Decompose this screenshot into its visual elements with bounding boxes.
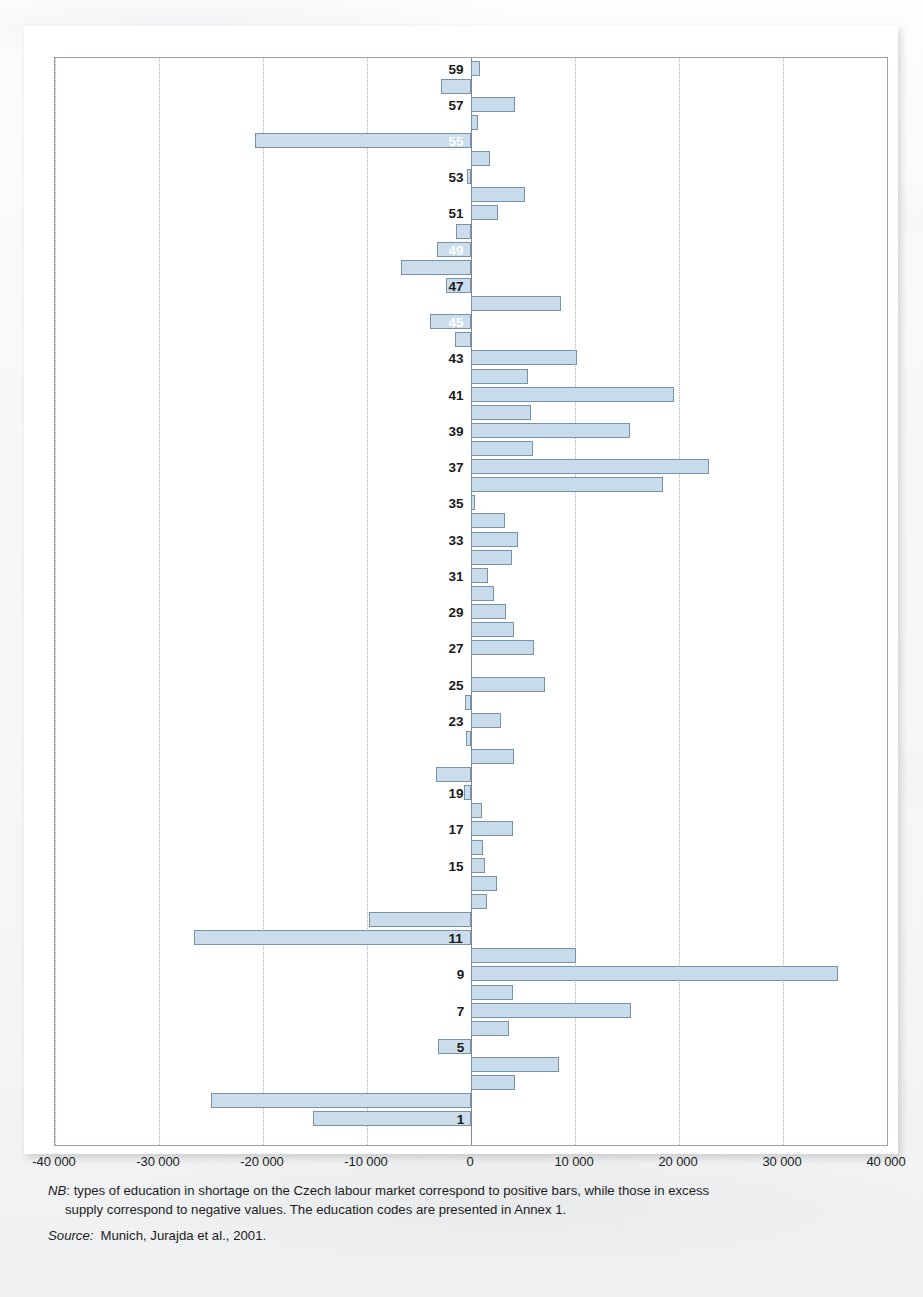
bar-16 — [471, 840, 483, 855]
bar-31 — [471, 568, 488, 583]
bar-category-label-45: 45 — [449, 316, 464, 330]
figure-page: 5957555351494745434139373533312927252321… — [0, 0, 923, 1297]
bar-18 — [471, 803, 482, 818]
bar-34 — [471, 513, 505, 528]
bar-category-label-1: 1 — [457, 1113, 464, 1127]
x-tick-label--30000: -30 000 — [136, 1154, 179, 1169]
bar-category-label-31: 31 — [449, 570, 464, 584]
figure-notes: NB: types of education in shortage on th… — [48, 1182, 878, 1243]
bar-19 — [464, 785, 471, 800]
bar-12 — [369, 912, 471, 927]
bar-59 — [471, 61, 480, 76]
x-tick-label-30000: 30 000 — [762, 1154, 801, 1169]
bar-category-label-9: 9 — [457, 968, 464, 982]
bar-category-label-49: 49 — [449, 244, 464, 258]
x-tick-label-40000: 40 000 — [866, 1154, 905, 1169]
bar-category-label-33: 33 — [449, 534, 464, 548]
bar-33 — [471, 532, 518, 547]
plot-frame: 5957555351494745434139373533312927252321… — [54, 57, 888, 1146]
bar-42 — [471, 369, 528, 384]
bar-56 — [471, 115, 478, 130]
bar-category-label-51: 51 — [449, 207, 464, 221]
bar-15 — [471, 858, 485, 873]
bar-22 — [466, 731, 471, 746]
bar-2 — [211, 1093, 471, 1108]
note-line-2: supply correspond to negative values. Th… — [48, 1201, 878, 1220]
x-tick-label-10000: 10 000 — [554, 1154, 593, 1169]
bar-43 — [471, 350, 577, 365]
bar-52 — [471, 187, 525, 202]
bar-14 — [471, 876, 497, 891]
bar-32 — [471, 550, 512, 565]
bar-category-label-43: 43 — [449, 352, 464, 366]
bar-54 — [471, 151, 490, 166]
bar-7 — [471, 1003, 631, 1018]
bar-category-label-41: 41 — [449, 389, 464, 403]
bar-58 — [441, 79, 471, 94]
bar-category-label-5: 5 — [457, 1041, 464, 1055]
bar-36 — [471, 477, 663, 492]
bar-29 — [471, 604, 506, 619]
bar-35 — [471, 495, 475, 510]
bar-category-label-55: 55 — [449, 135, 464, 149]
bar-category-label-25: 25 — [449, 679, 464, 693]
bar-category-label-53: 53 — [449, 171, 464, 185]
note-line-1: NB: types of education in shortage on th… — [48, 1182, 878, 1201]
note-prefix: NB — [48, 1183, 66, 1198]
bar-6 — [471, 1021, 509, 1036]
gridline--40000 — [55, 58, 56, 1145]
bar-4 — [471, 1057, 559, 1072]
bar-17 — [471, 821, 513, 836]
bar-category-label-27: 27 — [449, 642, 464, 656]
bar-23 — [471, 713, 501, 728]
gridline--10000 — [367, 58, 368, 1145]
bar-category-label-59: 59 — [449, 63, 464, 77]
bar-13 — [471, 894, 487, 909]
bar-21 — [471, 749, 514, 764]
figure-card: 5957555351494745434139373533312927252321… — [24, 26, 898, 1154]
bar-category-label-13: 13 — [449, 896, 464, 910]
bar-category-label-3: 3 — [457, 1077, 464, 1091]
gridline-30000 — [783, 58, 784, 1145]
bar-39 — [471, 423, 630, 438]
bar-25 — [471, 677, 545, 692]
gridline-10000 — [575, 58, 576, 1145]
source-row: Source:Munich, Jurajda et al., 2001. — [48, 1228, 878, 1243]
bar-57 — [471, 97, 515, 112]
x-axis: -40 000-30 000-20 000-10 000010 00020 00… — [54, 1148, 888, 1174]
bar-category-label-11: 11 — [449, 932, 463, 946]
bar-category-label-19: 19 — [449, 787, 464, 801]
x-tick-label--40000: -40 000 — [32, 1154, 75, 1169]
bar-9 — [471, 966, 838, 981]
bar-38 — [471, 441, 533, 456]
x-tick-label--10000: -10 000 — [344, 1154, 387, 1169]
bar-3 — [471, 1075, 515, 1090]
bar-30 — [471, 586, 494, 601]
x-tick-label-0: 0 — [466, 1154, 473, 1169]
bar-28 — [471, 622, 514, 637]
bar-category-label-21: 21 — [449, 751, 464, 765]
gridline--20000 — [263, 58, 264, 1145]
bar-46 — [471, 296, 561, 311]
bar-10 — [471, 948, 576, 963]
bar-category-label-35: 35 — [449, 497, 464, 511]
bar-24 — [465, 695, 471, 710]
bar-category-label-23: 23 — [449, 715, 464, 729]
bar-48 — [401, 260, 471, 275]
gridline--30000 — [159, 58, 160, 1145]
bar-11 — [194, 930, 471, 945]
bar-5 — [438, 1039, 471, 1054]
bar-category-label-39: 39 — [449, 425, 464, 439]
bar-category-label-37: 37 — [449, 461, 464, 475]
bar-20 — [436, 767, 471, 782]
bar-8 — [471, 985, 513, 1000]
source-label: Source: — [48, 1228, 93, 1243]
bar-category-label-57: 57 — [449, 99, 464, 113]
bar-53 — [467, 169, 471, 184]
bar-category-label-15: 15 — [449, 860, 464, 874]
bar-51 — [471, 205, 498, 220]
bar-41 — [471, 387, 674, 402]
bar-55 — [255, 133, 471, 148]
bar-40 — [471, 405, 531, 420]
bar-44 — [455, 332, 471, 347]
